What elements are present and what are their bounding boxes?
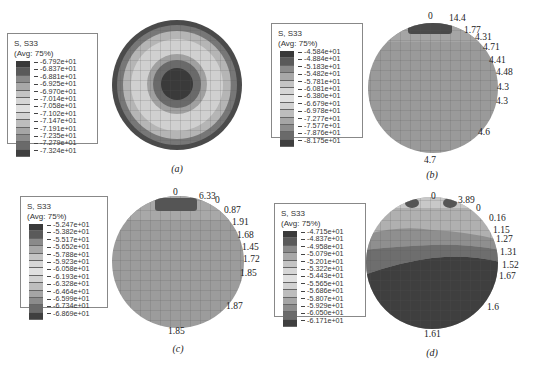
caption-b: (b): [426, 169, 438, 181]
annotation-label: 0: [215, 195, 220, 205]
annotation-label: 3.89: [458, 195, 475, 205]
annotation-label: 1.85: [240, 268, 257, 278]
caption-d: (d): [426, 347, 438, 359]
annotation-label: 0.16: [489, 213, 506, 223]
annotation-label: 1.61: [424, 329, 441, 339]
figure-canvas: (a) 0 14.4 1.77 4.31 4.71 4.41 4.48 4.3 …: [0, 0, 536, 368]
annotation-label: 0: [431, 191, 436, 201]
annotation-label: 4.41: [489, 55, 506, 65]
contour-plot-a: [110, 18, 245, 153]
annotation-label: 0: [173, 187, 178, 197]
annotation-label: 4.3: [496, 96, 508, 106]
annotation-label: 14.4: [449, 13, 466, 23]
annotation-label: 1.52: [502, 260, 519, 270]
annotation-label: 1.6: [487, 302, 499, 312]
annotation-label: 0: [476, 203, 481, 213]
annotation-label: 1.27: [496, 234, 513, 244]
annotation-label: 4.6: [478, 127, 490, 137]
contour-plot-d: [364, 196, 500, 332]
annotation-label: 0: [428, 11, 433, 21]
annotation-label: 1.87: [226, 301, 243, 311]
annotation-label: 0.87: [224, 205, 241, 215]
annotation-label: 1.85: [168, 326, 185, 336]
mesh-grid: [364, 196, 500, 332]
annotation-label: 4.48: [496, 67, 513, 77]
annotation-label: 4.3: [497, 82, 509, 92]
annotation-label: 1.91: [232, 217, 249, 227]
caption-a: (a): [171, 163, 183, 175]
annotation-label: 4.71: [483, 42, 500, 52]
mesh-grid: [110, 18, 245, 153]
annotation-label: 4.7: [424, 155, 436, 165]
annotation-label: 1.72: [243, 254, 260, 264]
annotation-label: 1.68: [237, 230, 254, 240]
annotation-label: 1.31: [500, 247, 517, 257]
annotation-label: 1.67: [499, 271, 516, 281]
annotation-label: 6.33: [199, 191, 216, 201]
annotation-label: 4.31: [475, 32, 492, 42]
caption-c: (c): [172, 343, 184, 355]
annotation-label: 1.45: [242, 242, 259, 252]
